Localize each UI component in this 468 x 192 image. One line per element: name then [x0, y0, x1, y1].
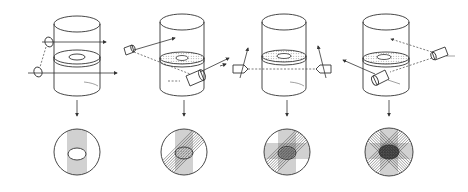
- cylinder-2: [160, 14, 204, 96]
- cylinder-3: [262, 14, 306, 96]
- source-1b-icon: [33, 66, 44, 78]
- slice-2: [160, 52, 204, 67]
- panel-4: [343, 14, 455, 186]
- ct-backprojection-diagram: [0, 0, 468, 192]
- slice-1: [54, 50, 100, 67]
- source-4b-icon: [370, 70, 389, 86]
- source-3a-icon: [233, 48, 248, 78]
- cylinder-1: [54, 16, 100, 96]
- slice-4: [363, 52, 409, 67]
- detector-3b-icon: [316, 46, 331, 78]
- slice-3: [262, 50, 306, 65]
- backprojection-1: [54, 125, 100, 180]
- panel-1: [28, 16, 117, 180]
- source-4a-icon: [430, 47, 448, 61]
- panel-3: [220, 14, 331, 183]
- backprojection-2: [154, 120, 215, 181]
- panel-2: [124, 14, 229, 181]
- cylinder-4: [363, 14, 409, 96]
- backprojection-4: [355, 117, 424, 186]
- backprojection-3: [254, 119, 318, 183]
